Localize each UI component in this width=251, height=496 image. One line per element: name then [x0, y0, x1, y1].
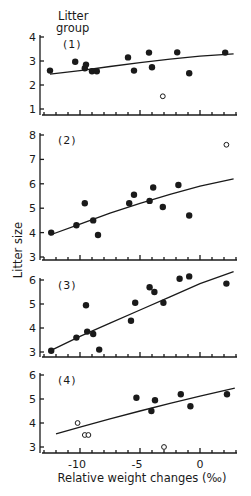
filled-data-point: [132, 300, 138, 306]
filled-data-point: [148, 408, 154, 414]
filled-data-point: [223, 280, 229, 286]
panel-3: 3456(3): [29, 272, 237, 359]
filled-data-point: [187, 403, 193, 409]
filled-data-point: [83, 61, 89, 67]
y-tick-label: 4: [29, 322, 36, 335]
y-tick-label: 1: [29, 103, 36, 116]
y-tick-label: 6: [29, 369, 36, 382]
litter-size-figure: Litter group Litter size Relative weight…: [0, 0, 251, 496]
filled-data-point: [146, 49, 152, 55]
open-data-point: [160, 94, 165, 99]
filled-data-point: [90, 217, 96, 223]
y-tick-label: 3: [29, 441, 36, 454]
y-tick-label: 4: [29, 31, 36, 44]
y-tick-label: 3: [29, 55, 36, 68]
legend-title-line2: group: [56, 21, 89, 35]
filled-data-point: [126, 200, 132, 206]
y-tick-label: 5: [29, 298, 36, 311]
filled-data-point: [94, 68, 100, 74]
filled-data-point: [186, 70, 192, 76]
y-tick-label: 5: [29, 393, 36, 406]
fit-curve: [56, 388, 235, 434]
y-axis-title: Litter size: [11, 222, 25, 278]
filled-data-point: [84, 328, 90, 334]
filled-data-point: [146, 284, 152, 290]
filled-data-point: [186, 212, 192, 218]
y-tick-label: 6: [29, 178, 36, 191]
y-tick-label: 4: [29, 417, 36, 430]
filled-data-point: [131, 192, 137, 198]
filled-data-point: [151, 289, 157, 295]
filled-data-point: [47, 67, 53, 73]
filled-data-point: [150, 184, 156, 190]
open-data-point: [75, 421, 80, 426]
x-axis-title: Relative weight changes (‰): [58, 471, 227, 485]
filled-data-point: [128, 318, 134, 324]
filled-data-point: [178, 391, 184, 397]
filled-data-point: [160, 204, 166, 210]
filled-data-point: [175, 182, 181, 188]
panel-label: (4): [58, 374, 77, 387]
open-data-point: [86, 433, 91, 438]
fit-curve: [50, 54, 234, 74]
filled-data-point: [72, 59, 78, 65]
filled-data-point: [73, 222, 79, 228]
panel-2: 345678(2): [29, 129, 237, 264]
filled-data-point: [48, 229, 54, 235]
filled-data-point: [224, 391, 230, 397]
y-tick-label: 4: [29, 227, 36, 240]
panel-4: 3456(4)-10-50: [29, 369, 237, 471]
filled-data-point: [186, 273, 192, 279]
y-tick-label: 5: [29, 202, 36, 215]
filled-data-point: [133, 395, 139, 401]
panel-1: 1234(1): [29, 31, 237, 116]
filled-data-point: [146, 198, 152, 204]
filled-data-point: [82, 200, 88, 206]
x-tick-label: -10: [68, 458, 86, 471]
filled-data-point: [152, 397, 158, 403]
panels-container: 1234(1)345678(2)3456(3)3456(4)-10-50: [29, 31, 237, 471]
filled-data-point: [131, 67, 137, 73]
panel-label: (2): [58, 134, 77, 147]
y-tick-label: 2: [29, 79, 36, 92]
filled-data-point: [95, 232, 101, 238]
open-data-point: [162, 445, 167, 450]
filled-data-point: [174, 49, 180, 55]
x-tick-label: -5: [132, 458, 143, 471]
filled-data-point: [96, 346, 102, 352]
y-tick-label: 7: [29, 153, 36, 166]
filled-data-point: [222, 49, 228, 55]
panel-label: (3): [58, 279, 77, 292]
filled-data-point: [73, 334, 79, 340]
filled-data-point: [90, 331, 96, 337]
y-tick-label: 8: [29, 129, 36, 142]
y-tick-label: 6: [29, 274, 36, 287]
filled-data-point: [160, 300, 166, 306]
filled-data-point: [149, 64, 155, 70]
filled-data-point: [83, 302, 89, 308]
y-tick-label: 3: [29, 251, 36, 264]
open-data-point: [224, 142, 229, 147]
x-tick-label: 0: [197, 458, 204, 471]
filled-data-point: [176, 276, 182, 282]
y-tick-label: 3: [29, 346, 36, 359]
filled-data-point: [125, 54, 131, 60]
panel-label: (1): [63, 38, 82, 51]
filled-data-point: [48, 348, 54, 354]
